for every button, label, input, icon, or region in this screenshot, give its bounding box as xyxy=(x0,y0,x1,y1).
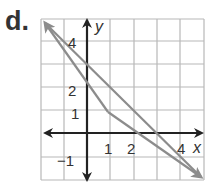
y-tick-1: 1 xyxy=(71,105,79,122)
y-axis-label: y xyxy=(94,18,104,35)
plotted-line xyxy=(45,23,108,112)
x-tick-4: 4 xyxy=(177,140,185,157)
y-tick-neg1: −1 xyxy=(57,152,74,169)
y-tick-2: 2 xyxy=(68,82,76,99)
coordinate-plane: y x 4 2 1 −1 1 2 4 xyxy=(0,0,218,190)
x-tick-1: 1 xyxy=(104,140,112,157)
x-axis-label: x xyxy=(192,139,202,156)
y-tick-4: 4 xyxy=(68,34,76,51)
x-tick-2: 2 xyxy=(127,140,135,157)
